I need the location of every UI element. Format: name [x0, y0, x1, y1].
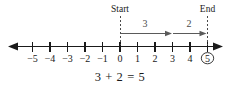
tick-label-neg3: −3 [62, 53, 73, 64]
tick-label-neg4: −4 [45, 53, 56, 64]
number-line-diagram: −5 −4 −3 −2 −1 0 1 2 3 4 5 Start End 3 2… [0, 0, 231, 89]
end-label: End [200, 4, 216, 14]
number-line-figure: −5 −4 −3 −2 −1 0 1 2 3 4 5 Start End 3 2… [0, 0, 231, 89]
tick-label-2: 2 [153, 53, 158, 64]
tick-label-4: 4 [188, 53, 193, 64]
tick-label-neg1: −1 [97, 53, 108, 64]
tick-label-neg5: −5 [27, 53, 38, 64]
tick-label-0: 0 [118, 53, 123, 64]
jump-label-two: 2 [187, 18, 192, 29]
start-label: Start [111, 4, 129, 14]
axis-arrowhead-left [8, 43, 18, 51]
tick-label-neg2: −2 [80, 53, 91, 64]
jump-arrow-two-head [200, 31, 207, 37]
tick-label-5: 5 [205, 53, 210, 64]
axis-arrowhead-right [213, 43, 223, 51]
equation-caption: 3 + 2 = 5 [95, 70, 146, 84]
jump-arrow-one-head [165, 31, 172, 37]
jump-label-one: 3 [143, 18, 148, 29]
tick-label-1: 1 [135, 53, 140, 64]
tick-label-3: 3 [170, 53, 175, 64]
